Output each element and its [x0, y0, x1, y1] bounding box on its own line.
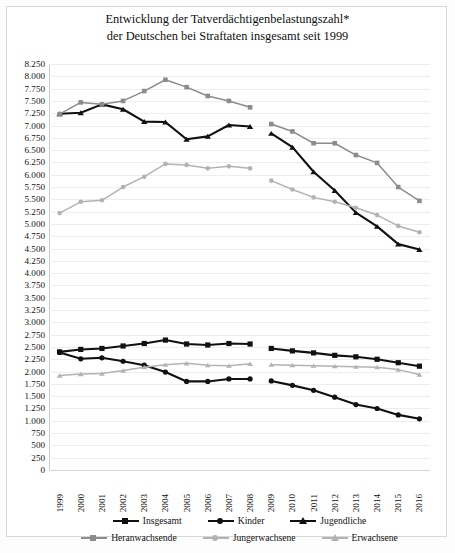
- y-axis-tick-label: 4.500: [25, 244, 45, 254]
- y-axis-labels: 8.2508.0007.7507.5007.2507.0006.7506.500…: [0, 64, 45, 470]
- x-axis-tick-label: 1999: [55, 494, 65, 512]
- legend-item-jugendliche[interactable]: Jugendliche: [290, 515, 366, 526]
- y-axis-tick-label: 8.250: [25, 59, 45, 69]
- y-axis-tick-label: 3.750: [25, 280, 45, 290]
- y-axis-tick-label: 7.250: [25, 108, 45, 118]
- x-axis-tick-label: 2006: [203, 494, 213, 512]
- legend-label: Jungerwachsene: [233, 532, 296, 543]
- legend-swatch-heranwachsende: [81, 533, 107, 542]
- y-axis-tick-label: 5.750: [25, 182, 45, 192]
- y-axis-tick-label: 3.500: [25, 293, 45, 303]
- legend-label: Heranwachsende: [111, 532, 177, 543]
- y-axis-tick-label: 750: [31, 428, 45, 438]
- y-axis-tick-label: 4.000: [25, 268, 45, 278]
- y-axis-tick-label: 2.500: [25, 342, 45, 352]
- x-axis-tick-label: 2001: [97, 494, 107, 512]
- legend-label: Kinder: [238, 515, 265, 526]
- chart-legend: InsgesamtKinderJugendliche Heranwachsend…: [49, 512, 430, 546]
- x-axis-tick-label: 2008: [245, 494, 255, 512]
- series-erwachsene: [57, 361, 423, 378]
- series-heranwachsende: [57, 77, 421, 203]
- y-axis-tick-label: 5.500: [25, 194, 45, 204]
- y-axis-tick-label: 5.000: [25, 219, 45, 229]
- y-axis-tick-label: 6.750: [25, 133, 45, 143]
- y-axis-tick-label: 6.000: [25, 170, 45, 180]
- series-jugendliche: [56, 102, 422, 252]
- x-axis-tick-label: 2015: [393, 494, 403, 512]
- y-axis-tick-label: 8.000: [25, 71, 45, 81]
- x-axis-tick-label: 2009: [266, 494, 276, 512]
- x-axis-tick-label: 2011: [309, 494, 319, 512]
- x-axis-tick-label: 2000: [76, 494, 86, 512]
- y-axis-tick-label: 1.000: [25, 416, 45, 426]
- x-axis-tick-label: 2010: [287, 494, 297, 512]
- y-axis-tick-label: 3.000: [25, 317, 45, 327]
- y-axis-tick-label: 2.750: [25, 330, 45, 340]
- y-axis-tick-label: 250: [31, 453, 45, 463]
- x-axis-tick-label: 2003: [139, 494, 149, 512]
- x-axis-tick-label: 2002: [118, 494, 128, 512]
- series-lines: [49, 64, 430, 470]
- legend-swatch-erwachsene: [322, 533, 348, 542]
- y-axis-tick-label: 2.250: [25, 354, 45, 364]
- y-axis-tick-label: 3.250: [25, 305, 45, 315]
- x-axis-labels: 1999200020012002200320042005200620072008…: [49, 472, 430, 512]
- chart-container: Entwicklung der Tatverdächtigenbelastung…: [0, 0, 455, 553]
- legend-label: Jugendliche: [320, 515, 366, 526]
- x-axis-tick-label: 2016: [414, 494, 424, 512]
- y-axis-tick-label: 1.750: [25, 379, 45, 389]
- chart-title-line2: der Deutschen bei Straftaten insgesamt s…: [0, 28, 455, 45]
- x-axis-tick-label: 2014: [372, 494, 382, 512]
- x-axis-tick-label: 2012: [330, 494, 340, 512]
- legend-item-heranwachsende[interactable]: Heranwachsende: [81, 532, 177, 543]
- x-axis-tick-label: 2005: [182, 494, 192, 512]
- chart-title-line1: Entwicklung der Tatverdächtigenbelastung…: [0, 11, 455, 28]
- series-kinder: [57, 350, 422, 422]
- legend-label: Erwachsene: [352, 532, 398, 543]
- x-axis-tick-label: 2007: [224, 494, 234, 512]
- legend-swatch-kinder: [208, 516, 234, 525]
- y-axis-tick-label: 7.750: [25, 84, 45, 94]
- y-axis-tick-label: 7.500: [25, 96, 45, 106]
- legend-item-erwachsene[interactable]: Erwachsene: [322, 532, 398, 543]
- y-axis-tick-label: 2.000: [25, 367, 45, 377]
- legend-swatch-jugendliche: [290, 516, 316, 525]
- y-axis-tick-label: 6.250: [25, 157, 45, 167]
- x-axis-tick-label: 2013: [351, 494, 361, 512]
- y-axis-tick-label: 1.250: [25, 403, 45, 413]
- gridline: [49, 470, 430, 471]
- y-axis-tick-label: 1.500: [25, 391, 45, 401]
- legend-item-jungerwachsene[interactable]: Jungerwachsene: [203, 532, 296, 543]
- y-axis-tick-label: 4.750: [25, 231, 45, 241]
- y-axis-tick-label: 4.250: [25, 256, 45, 266]
- series-jungerwachsene: [57, 162, 421, 235]
- legend-row-2: HeranwachsendeJungerwachseneErwachsene: [49, 529, 430, 546]
- chart-title: Entwicklung der Tatverdächtigenbelastung…: [0, 11, 455, 45]
- y-axis-tick-label: 5.250: [25, 207, 45, 217]
- legend-item-insgesamt[interactable]: Insgesamt: [113, 515, 182, 526]
- legend-item-kinder[interactable]: Kinder: [208, 515, 265, 526]
- y-axis-tick-label: 0: [40, 465, 45, 475]
- plot-area: [49, 64, 430, 470]
- legend-swatch-insgesamt: [113, 516, 139, 525]
- y-axis-tick-label: 6.500: [25, 145, 45, 155]
- x-axis-tick-label: 2004: [160, 494, 170, 512]
- y-axis-tick-label: 500: [31, 440, 45, 450]
- y-axis-tick-label: 7.000: [25, 121, 45, 131]
- legend-swatch-jungerwachsene: [203, 533, 229, 542]
- legend-label: Insgesamt: [143, 515, 182, 526]
- legend-row-1: InsgesamtKinderJugendliche: [49, 512, 430, 529]
